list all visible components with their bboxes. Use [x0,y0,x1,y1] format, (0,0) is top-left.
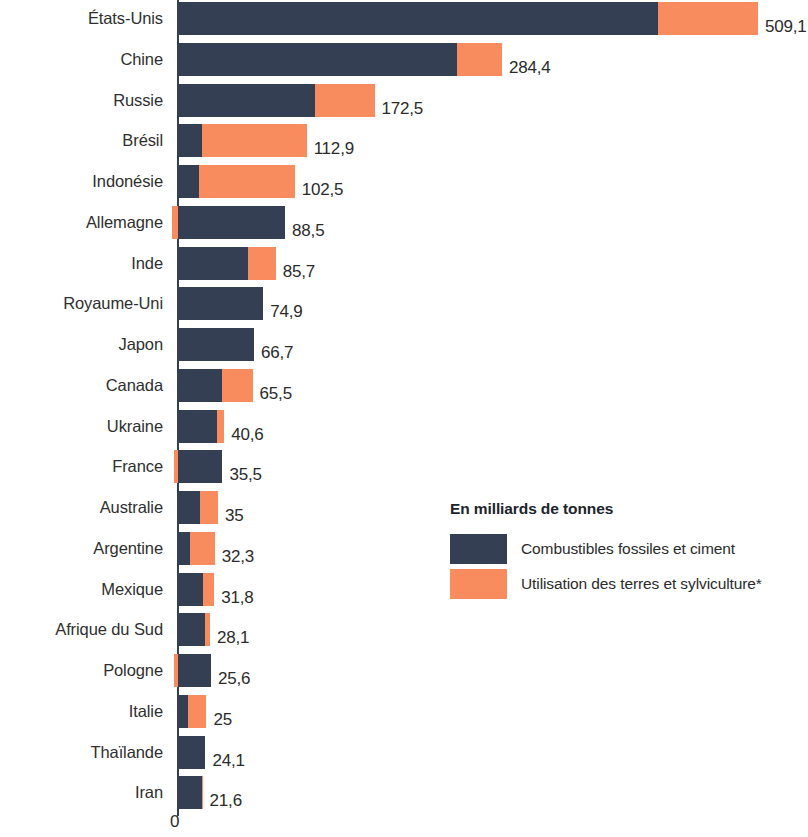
bar-row: Afrique du Sud28,1 [0,613,808,646]
bar-segment-fossil [178,491,200,524]
bar-row: États-Unis509,1 [0,2,808,35]
bar-value-label: 35 [225,506,244,526]
bar-value-label: 24,1 [212,751,244,771]
bar-value-label: 112,9 [314,139,354,159]
category-label: Iran [0,776,163,809]
bar-segment-fossil [178,613,205,646]
bar-segment-fossil [178,369,222,402]
chart-legend: En milliards de tonnes Combustibles foss… [450,500,800,604]
bar-value-label: 66,7 [261,343,293,363]
axis-zero-label: 0 [170,812,179,832]
bar-value-label: 102,5 [302,180,344,200]
category-label: Argentine [0,532,163,565]
bar-segment-fossil [178,532,190,565]
bar-segment-landuse [217,410,225,443]
bar-row: Russie172,5 [0,84,808,117]
bar-row: Canada65,5 [0,369,808,402]
bar-segment-fossil [178,43,457,76]
category-label: Royaume-Uni [0,287,163,320]
bar-row: Royaume-Uni74,9 [0,287,808,320]
bar-segment-landuse [202,124,307,157]
category-label: Australie [0,491,163,524]
bar-value-label: 31,8 [221,588,253,608]
bar-row: Iran21,6 [0,776,808,809]
bar-segment-fossil [178,84,315,117]
bar-row: Brésil112,9 [0,124,808,157]
bar-row: Ukraine40,6 [0,410,808,443]
bar-segment-landuse [202,776,203,809]
category-label: Brésil [0,124,163,157]
bar-row: Italie25 [0,695,808,728]
bar-segment-landuse [315,84,374,117]
bar-segment-landuse-negative [174,450,178,483]
bar-segment-landuse [200,491,218,524]
bar-row: France35,5 [0,450,808,483]
bar-value-label: 28,1 [217,628,249,648]
bar-segment-fossil [178,328,254,361]
bar-segment-fossil [178,206,285,239]
bar-value-label: 284,4 [509,58,551,78]
category-label: États-Unis [0,2,163,35]
category-label: Italie [0,695,163,728]
bar-value-label: 25 [213,710,232,730]
bar-row: Thaïlande24,1 [0,736,808,769]
bar-row: Indonésie102,5 [0,165,808,198]
legend-label-fossil: Combustibles fossiles et ciment [521,540,735,558]
category-label: Pologne [0,654,163,687]
bar-value-label: 25,6 [218,669,250,689]
category-label: France [0,450,163,483]
bar-value-label: 35,5 [229,465,261,485]
bar-segment-fossil [178,776,202,809]
bar-segment-fossil [178,450,222,483]
bar-segment-fossil [178,165,199,198]
bar-segment-fossil [178,2,658,35]
bar-segment-landuse [205,613,210,646]
bar-segment-landuse [190,532,215,565]
bar-segment-fossil [178,410,217,443]
bar-segment-landuse [203,573,214,606]
bar-segment-fossil [178,573,203,606]
bar-value-label: 74,9 [270,302,302,322]
category-label: Japon [0,328,163,361]
bar-value-label: 32,3 [222,547,254,567]
bar-segment-landuse [658,2,758,35]
bar-segment-landuse [188,695,206,728]
category-label: Allemagne [0,206,163,239]
emissions-bar-chart: États-Unis509,1Chine284,4Russie172,5Brés… [0,0,808,837]
bar-segment-landuse [222,369,253,402]
category-label: Russie [0,84,163,117]
legend-title: En milliards de tonnes [450,500,800,518]
bar-segment-landuse [199,165,295,198]
category-label: Canada [0,369,163,402]
bar-row: Inde85,7 [0,247,808,280]
category-label: Thaïlande [0,736,163,769]
bar-value-label: 88,5 [292,221,324,241]
category-label: Inde [0,247,163,280]
bar-segment-fossil [178,124,202,157]
legend-swatch-fossil-icon [450,534,507,564]
bar-segment-landuse [248,247,276,280]
bar-value-label: 172,5 [382,99,424,119]
legend-label-land: Utilisation des terres et sylviculture* [521,575,762,593]
bar-segment-fossil [178,287,263,320]
category-label: Indonésie [0,165,163,198]
bar-value-label: 40,6 [231,425,263,445]
bar-row: Pologne25,6 [0,654,808,687]
bar-segment-landuse-negative [172,206,178,239]
legend-item-land: Utilisation des terres et sylviculture* [450,569,800,599]
bar-row: Japon66,7 [0,328,808,361]
y-axis-line [177,0,179,816]
legend-swatch-land-icon [450,569,507,599]
bar-segment-fossil [178,654,211,687]
bar-segment-landuse [457,43,502,76]
bar-value-label: 85,7 [283,262,315,282]
bar-row: Allemagne88,5 [0,206,808,239]
bar-value-label: 65,5 [260,384,292,404]
category-label: Afrique du Sud [0,613,163,646]
category-label: Mexique [0,573,163,606]
bar-value-label: 21,6 [210,791,242,811]
plot-area: États-Unis509,1Chine284,4Russie172,5Brés… [0,0,808,837]
bar-segment-landuse-negative [174,654,178,687]
legend-item-fossil: Combustibles fossiles et ciment [450,534,800,564]
category-label: Chine [0,43,163,76]
